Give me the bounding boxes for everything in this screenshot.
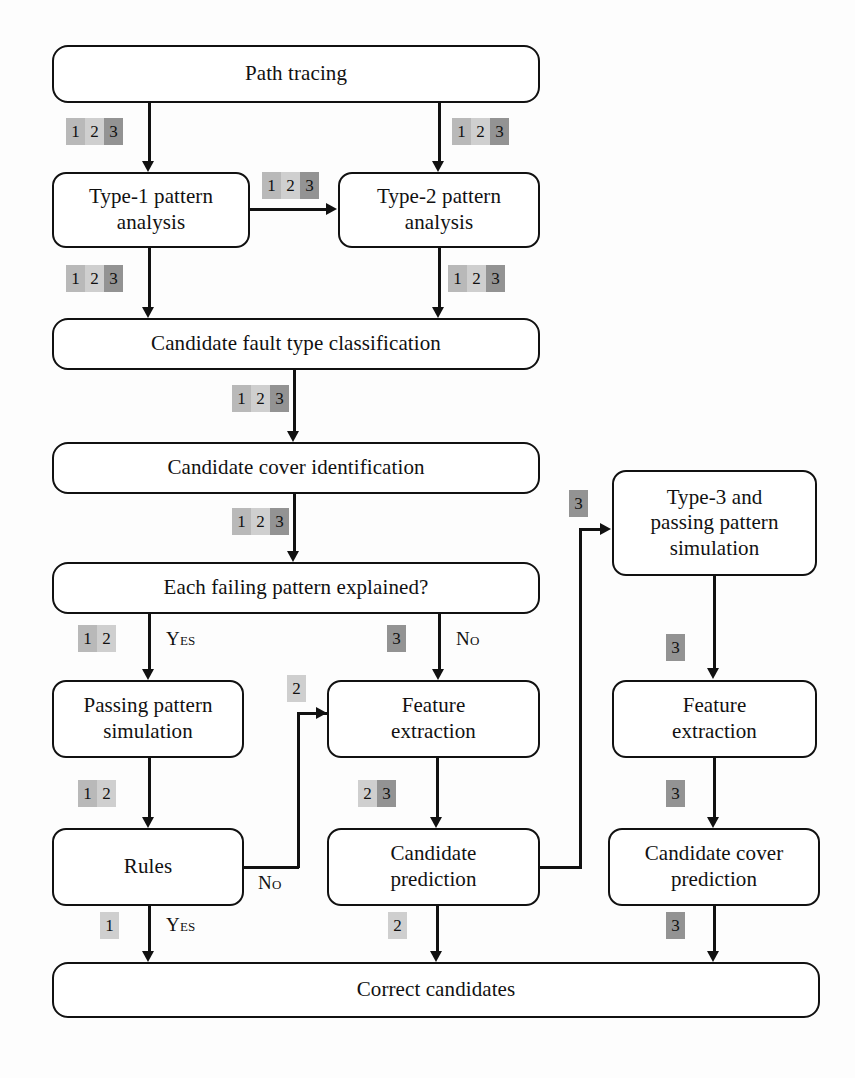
arrowhead-down [432,307,444,318]
badge-cell: 3 [569,490,588,517]
edge-featureextract-to-candpred [436,758,439,818]
badge-cell: 1 [78,780,97,807]
badge-cell: 1 [78,625,97,652]
node-label: Candidate cover prediction [645,841,784,892]
arrowhead-down [707,817,719,828]
badge-cell: 3 [377,780,396,807]
node-label-line2: passing pattern [650,510,778,536]
badge-type1-to-faultclass: 1 2 3 [66,265,123,292]
arrowhead-down [287,551,299,562]
node-type3-and-passing-pattern-simulation[interactable]: Type-3 and passing pattern simulation [612,470,817,576]
badge-candcoverpred-out: 3 [666,912,685,939]
node-label-line3: simulation [650,536,778,562]
badge-cell: 2 [281,172,300,199]
badge-cell: 2 [85,265,104,292]
badge-cell: 1 [452,118,471,145]
badge-cell: 3 [104,118,123,145]
edge-faultclass-to-coverident [293,370,296,434]
edge-rules-no-seg-right [244,866,299,869]
node-label: Type-1 pattern analysis [89,184,213,235]
badge-cell: 3 [270,508,289,535]
node-label-line2: extraction [672,719,757,745]
badge-cell: 2 [97,780,116,807]
arrowhead-down [430,817,442,828]
node-label-line2: prediction [390,867,476,893]
edge-pathtracing-to-type1 [148,103,151,163]
node-label: Correct candidates [357,977,516,1003]
node-label-line2: simulation [83,719,212,745]
edge-type2-to-faultclass [438,248,441,310]
arrowhead-down [432,669,444,680]
node-correct-candidates[interactable]: Correct candidates [52,962,820,1018]
node-type1-pattern-analysis[interactable]: Type-1 pattern analysis [52,172,250,248]
node-passing-pattern-simulation[interactable]: Passing pattern simulation [52,680,244,758]
badge-cell: 3 [666,634,685,661]
node-label: Candidate cover identification [167,455,424,481]
node-path-tracing[interactable]: Path tracing [52,45,540,103]
node-label: Feature extraction [391,693,476,744]
node-label: Type-2 pattern analysis [377,184,501,235]
node-label-line1: Feature [391,693,476,719]
badge-cell: 2 [471,118,490,145]
node-feature-extraction-middle[interactable]: Feature extraction [327,680,540,758]
edge-label-yes-rules: Yes [166,914,196,936]
node-candidate-cover-prediction[interactable]: Candidate cover prediction [608,828,820,906]
badge-cell: 3 [666,780,685,807]
edge-pathtracing-to-type2 [438,103,441,163]
node-label: Feature extraction [672,693,757,744]
node-type2-pattern-analysis[interactable]: Type-2 pattern analysis [338,172,540,248]
node-candidate-fault-type-classification[interactable]: Candidate fault type classification [52,318,540,370]
badge-cell: 3 [270,385,289,412]
badge-cell: 1 [66,118,85,145]
badge-cell: 2 [358,780,377,807]
arrowhead-down [707,951,719,962]
badge-candpred-out: 2 [388,912,407,939]
arrowhead-down [142,307,154,318]
edge-rules-no-seg-up [297,712,300,868]
badge-cell: 3 [490,118,509,145]
node-label-line1: Candidate [390,841,476,867]
badge-cell: 2 [97,625,116,652]
node-label-line2: analysis [377,210,501,236]
edge-type3sim-to-featureextractright [713,576,716,669]
badge-cell: 1 [448,265,467,292]
node-label-line1: Candidate cover [645,841,784,867]
node-candidate-prediction[interactable]: Candidate prediction [327,828,540,906]
edge-candpred-to-correct [436,906,439,956]
node-label: Type-3 and passing pattern simulation [650,485,778,562]
edge-explained-yes-to-passingsim [148,614,151,670]
badge-type2-to-faultclass: 1 2 3 [448,265,505,292]
badge-cell: 1 [100,912,119,939]
badge-type3sim-to-featureextractright: 3 [666,634,685,661]
badge-coverident-to-explained: 1 2 3 [232,508,289,535]
node-feature-extraction-right[interactable]: Feature extraction [612,680,817,758]
node-label-line1: Type-2 pattern [377,184,501,210]
node-candidate-cover-identification[interactable]: Candidate cover identification [52,442,540,494]
badge-pathtracing-to-type2: 1 2 3 [452,118,509,145]
arrowhead-down [707,668,719,679]
badge-cell: 1 [66,265,85,292]
node-label-line1: Type-1 pattern [89,184,213,210]
node-label: Rules [124,854,172,880]
node-label: Candidate fault type classification [151,331,441,357]
badge-faultclass-to-coverident: 1 2 3 [232,385,289,412]
node-label: Path tracing [245,61,347,87]
flowchart-canvas: Path tracing Type-1 pattern analysis Typ… [0,0,855,1078]
node-label-line2: analysis [89,210,213,236]
badge-cell: 3 [666,912,685,939]
badge-cell: 2 [251,508,270,535]
badge-cell: 2 [251,385,270,412]
edge-candpred-feedback-right [540,866,582,869]
edge-label-yes-top: Yes [166,628,196,650]
badge-explained-yes: 1 2 [78,625,116,652]
badge-passingsim-to-rules: 1 2 [78,780,116,807]
node-each-failing-pattern-explained[interactable]: Each failing pattern explained? [52,562,540,614]
edge-featureextractright-to-candcoverpred [713,758,716,818]
node-rules[interactable]: Rules [52,828,244,906]
badge-explained-no: 3 [387,625,406,652]
badge-candpred-feedback: 3 [569,490,588,517]
arrowhead-right [316,707,327,719]
edge-type1-to-type2 [250,208,328,211]
node-label-line1: Passing pattern [83,693,212,719]
edge-candpred-feedback-up [579,528,582,868]
